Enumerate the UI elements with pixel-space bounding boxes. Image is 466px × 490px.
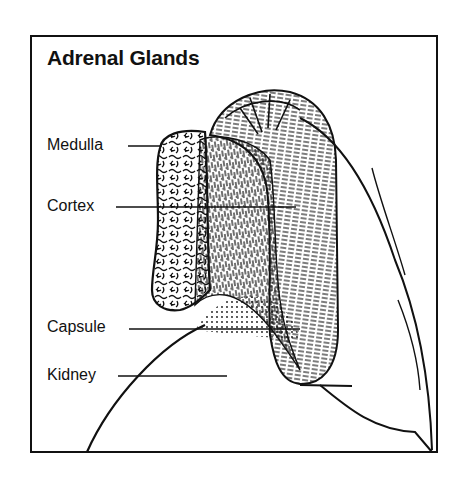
label-medulla: Medulla [47,136,103,154]
label-kidney: Kidney [47,366,96,384]
medulla-region [152,131,210,310]
adrenal-gland-illustration [0,0,466,490]
diagram-title: Adrenal Glands [47,46,199,70]
label-cortex: Cortex [47,197,94,215]
label-capsule: Capsule [47,318,106,336]
